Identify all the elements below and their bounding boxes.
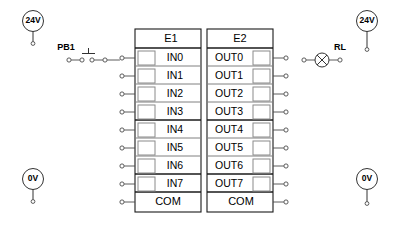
e1-terminal-wires — [107, 56, 135, 204]
terminal-in1[interactable] — [138, 69, 155, 83]
wire-node-e1-com[interactable] — [120, 200, 124, 204]
module-e1[interactable]: E1 IN0 IN1 IN2 IN3 IN4 IN5 IN6 IN7 COM — [135, 29, 201, 212]
wire-node-in2[interactable] — [120, 92, 124, 96]
channel-label-out2: OUT2 — [215, 87, 243, 99]
module-e1-header: E1 — [164, 32, 177, 44]
supply-0v-left-label: 0V — [28, 173, 39, 183]
wire-node-out4[interactable] — [284, 128, 288, 132]
channel-label-in5: IN5 — [167, 141, 184, 153]
terminal-in2[interactable] — [138, 87, 155, 101]
wire-node-out2[interactable] — [284, 92, 288, 96]
supply-24v-left-label: 24V — [25, 15, 40, 25]
supply-0v-right-label: 0V — [362, 173, 373, 183]
terminal-out4[interactable] — [253, 123, 270, 137]
lamp-symbol — [302, 53, 342, 67]
terminal-in3[interactable] — [138, 105, 155, 119]
terminal-out2[interactable] — [253, 87, 270, 101]
channel-label-in1: IN1 — [167, 69, 184, 81]
wire-node-in4[interactable] — [120, 128, 124, 132]
terminal-in5[interactable] — [138, 141, 155, 155]
wire-node-out5[interactable] — [284, 146, 288, 150]
wire-node-in6[interactable] — [120, 164, 124, 168]
plc-wiring-diagram: E1 IN0 IN1 IN2 IN3 IN4 IN5 IN6 IN7 COM — [0, 0, 398, 230]
wire-node-in3[interactable] — [120, 110, 124, 114]
channel-label-in6: IN6 — [167, 159, 184, 171]
terminal-in6[interactable] — [138, 159, 155, 173]
channel-label-out1: OUT1 — [215, 69, 243, 81]
wire-node-in0[interactable] — [120, 56, 124, 60]
channel-label-in2: IN2 — [167, 87, 184, 99]
terminal-out1[interactable] — [253, 69, 270, 83]
wire-node-in7[interactable] — [120, 182, 124, 186]
wire-node-out3[interactable] — [284, 110, 288, 114]
module-e2[interactable]: E2 OUT0 OUT1 OUT2 OUT3 OUT4 OUT5 OUT6 OU… — [207, 29, 273, 212]
channel-label-out0: OUT0 — [215, 51, 243, 63]
channel-label-out4: OUT4 — [215, 123, 243, 135]
e2-terminal-wires — [273, 56, 288, 204]
terminal-out3[interactable] — [253, 105, 270, 119]
wire-node-out6[interactable] — [284, 164, 288, 168]
terminal-out6[interactable] — [253, 159, 270, 173]
terminal-in4[interactable] — [138, 123, 155, 137]
channel-label-out5: OUT5 — [215, 141, 243, 153]
channel-label-in3: IN3 — [167, 105, 184, 117]
module-e1-common: COM — [155, 195, 181, 207]
supply-24v-right-label: 24V — [359, 15, 374, 25]
terminal-out7[interactable] — [253, 177, 270, 191]
module-e2-header: E2 — [233, 32, 246, 44]
wire-node-in5[interactable] — [120, 146, 124, 150]
push-button-label: PB1 — [57, 42, 75, 52]
channel-label-out7: OUT7 — [215, 177, 243, 189]
wire-node-in1[interactable] — [120, 74, 124, 78]
channel-label-in4: IN4 — [167, 123, 184, 135]
terminal-out0[interactable] — [253, 51, 270, 65]
terminal-out5[interactable] — [253, 141, 270, 155]
channel-label-in0: IN0 — [167, 51, 184, 63]
channel-label-out6: OUT6 — [215, 159, 243, 171]
lamp-label: RL — [334, 42, 346, 52]
terminal-in7[interactable] — [138, 177, 155, 191]
channel-label-in7: IN7 — [167, 177, 184, 189]
terminal-in0[interactable] — [138, 51, 155, 65]
diagram-canvas: E1 IN0 IN1 IN2 IN3 IN4 IN5 IN6 IN7 COM — [0, 0, 398, 230]
wire-node-e2-com[interactable] — [284, 200, 288, 204]
wire-node-out1[interactable] — [284, 74, 288, 78]
wire-node-out0[interactable] — [284, 56, 288, 60]
module-e2-common: COM — [228, 195, 254, 207]
channel-label-out3: OUT3 — [215, 105, 243, 117]
wire-node-out7[interactable] — [284, 182, 288, 186]
